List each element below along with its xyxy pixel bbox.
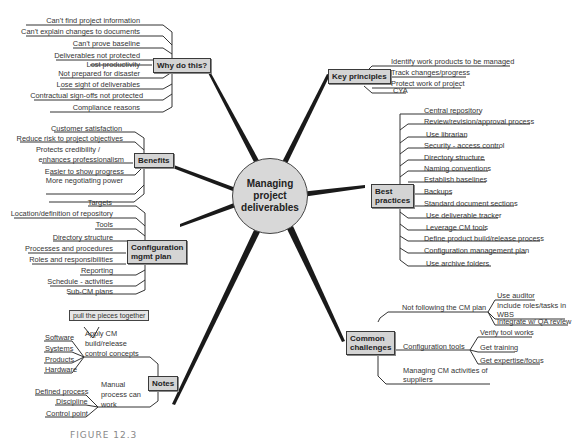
node-key-principles: Key principles [328,69,391,84]
list-item: Reduce risk to project objectives [17,134,123,143]
list-item: Identify work products to be managed [391,57,514,66]
list-item: Track changes/progress [391,68,470,77]
list-item: Discipline [56,397,88,406]
list-item: Review/revision/approval process [424,117,534,126]
callout-note: pull the pieces together [69,310,149,321]
list-item: Easier to show progress [45,167,124,176]
list-item: Not prepared for disaster [58,69,140,78]
node-benefits: Benefits [134,153,174,168]
node-label: challenges [350,343,391,352]
node-label: Notes [152,379,174,388]
list-item: Processes and procedures [25,244,113,253]
node-label: Best [375,187,410,196]
list-item: Reporting [81,266,113,275]
list-item: Standard document sections [424,199,518,208]
list-item: Use auditor [497,291,535,300]
branch-label: Not following the CM plan [402,303,486,312]
list-item: Directory structure [424,153,484,162]
node-best-practices: Best practices [371,184,414,208]
node-label: Benefits [138,156,170,165]
node-why-do-this: Why do this? [153,58,211,73]
list-item: Get training [480,343,518,352]
central-topic: Managing project deliverables [232,158,308,234]
list-item: Use deliverable tracker [426,211,502,220]
figure-caption: FIGURE 12.3 [70,430,137,440]
node-configuration-mgmt-plan: Configuration mgmt plan [127,240,187,264]
node-label: Key principles [332,72,387,81]
list-item: Naming conventions [424,164,491,173]
node-label: practices [375,196,410,205]
list-item: Tools [96,220,113,229]
list-item: Customer satisfaction [51,124,122,133]
node-notes: Notes [148,376,178,391]
list-item: Get expertise/focus [480,356,544,365]
list-item: Deliverables not protected [54,51,140,60]
list-item: Establish baselines [424,175,487,184]
list-item: enhances professionalism [39,155,124,164]
node-label: mgmt plan [131,252,183,261]
branch-label-suppliers: Managing CM activities of suppliers [403,366,488,384]
list-item: Targets [88,198,112,207]
list-item: Can't find project information [46,16,140,25]
node-common-challenges: Common challenges [346,331,395,355]
list-item: Can't prove baseline [73,39,140,48]
list-item: Protects credibility / [36,145,100,154]
node-label: Configuration [131,243,183,252]
list-item: Verify tool works [480,328,534,337]
list-item: Configuration management plan [424,246,529,255]
list-item: Integrate w/ QA review [497,317,571,326]
list-item: Use librarian [426,130,468,139]
list-item: Central repository [424,106,482,115]
list-item: CYA [393,86,408,95]
list-item: Control point [46,409,88,418]
list-item: Lose sight of deliverables [57,80,140,89]
list-item: Roles and responsibilities [29,255,113,264]
manual-process-text: Manual process can work [101,380,141,410]
apply-cm-text: Apply CM build/release control concepts [85,329,139,359]
branch-label: Configuration tools [403,342,465,351]
list-item: Security - access control [424,141,505,150]
list-item: Define product build/release process [424,234,544,243]
list-item: Products [45,355,74,364]
list-item: Schedule - activities [47,277,113,286]
list-item: Location/definition of repository [11,209,113,218]
list-item: Directory structure [53,233,113,242]
list-item: Hardware [45,365,77,374]
node-label: Common [350,334,391,343]
list-item: Backups [424,187,452,196]
list-item: Compliance reasons [73,103,140,112]
list-item: Leverage CM tools [426,223,488,232]
list-item: Lost productivity [87,60,140,69]
list-item: Include roles/tasks in [497,301,566,310]
list-item: More negotiating power [46,176,123,185]
list-item: Software [45,333,74,342]
node-label: Why do this? [157,61,207,70]
list-item: Systems [45,344,73,353]
list-item: Defined process [35,387,88,396]
central-topic-label: Managing project deliverables [233,178,307,214]
list-item: Sub-CM plans [66,287,113,296]
list-item: Can't explain changes to documents [21,27,140,36]
list-item: Contractual sign-offs not protected [30,91,143,100]
list-item: Use archive folders [426,259,489,268]
